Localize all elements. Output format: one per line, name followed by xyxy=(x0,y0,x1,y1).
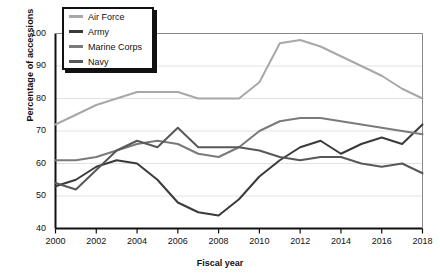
y-tick-label: 40 xyxy=(22,223,46,233)
x-tick-label: 2002 xyxy=(76,236,116,246)
x-tick-label: 2004 xyxy=(117,236,157,246)
x-axis-title: Fiscal year xyxy=(0,258,440,268)
x-tick-label: 2014 xyxy=(321,236,361,246)
x-tick-label: 2008 xyxy=(199,236,239,246)
y-axis-title: Percentage of accessions xyxy=(25,0,35,155)
legend-swatch-army xyxy=(69,30,83,33)
legend-item-marine-corps: Marine Corps xyxy=(69,39,152,54)
legend: Air Force Army Marine Corps Navy xyxy=(62,7,154,70)
line-chart: 100908070605040 200020022004200620082010… xyxy=(0,0,440,276)
x-tick-label: 2012 xyxy=(280,236,320,246)
legend-label-marine-corps: Marine Corps xyxy=(88,42,142,52)
legend-label-army: Army xyxy=(88,27,109,37)
legend-swatch-marine-corps xyxy=(69,45,83,48)
legend-item-navy: Navy xyxy=(69,54,152,69)
legend-item-air-force: Air Force xyxy=(69,9,152,24)
x-tick-label: 2000 xyxy=(36,236,76,246)
x-tick-label: 2010 xyxy=(239,236,279,246)
legend-swatch-navy xyxy=(69,60,83,63)
legend-swatch-air-force xyxy=(69,15,83,18)
legend-label-air-force: Air Force xyxy=(88,12,125,22)
x-tick-label: 2006 xyxy=(158,236,198,246)
x-tick-label: 2018 xyxy=(403,236,440,246)
legend-item-army: Army xyxy=(69,24,152,39)
y-tick-label: 60 xyxy=(22,158,46,168)
legend-label-navy: Navy xyxy=(88,57,109,67)
x-tick-label: 2016 xyxy=(362,236,402,246)
y-tick-label: 50 xyxy=(22,190,46,200)
